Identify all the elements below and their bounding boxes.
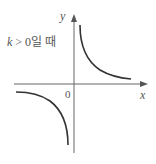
graph-canvas [0,0,156,164]
condition-text: > 0일 때 [12,35,56,49]
x-axis-label: x [140,89,145,101]
x-axis-arrow-icon [140,81,148,87]
curve-first-quadrant [80,25,131,79]
curve-third-quadrant [16,92,68,145]
origin-label: 0 [65,89,71,100]
y-axis-label: y [60,10,65,22]
condition-label: k > 0일 때 [7,36,56,48]
hyperbola-diagram: k > 0일 때 y x 0 [0,0,156,164]
y-axis-arrow-icon [71,14,77,22]
